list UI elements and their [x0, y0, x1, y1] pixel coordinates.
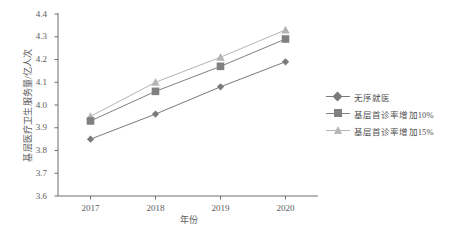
legend-marker-diamond-icon: [333, 91, 343, 101]
data-point-square: [282, 35, 290, 43]
chart-legend: 无序就医基层首诊率增加10%基层首诊率增加15%: [326, 88, 452, 139]
legend-marker-triangle-icon: [334, 126, 342, 134]
legend-label: 基层首诊率增加10%: [350, 108, 434, 120]
data-point-diamond: [217, 83, 224, 90]
series-line-1: [91, 62, 286, 139]
data-point-diamond: [282, 58, 289, 65]
data-point-square: [217, 63, 225, 71]
legend-item-3[interactable]: 基层首诊率增加15%: [326, 122, 452, 139]
data-point-diamond: [152, 111, 159, 118]
data-point-triangle: [281, 26, 289, 34]
legend-label: 基层首诊率增加15%: [350, 125, 434, 137]
data-point-diamond: [87, 136, 94, 143]
data-point-triangle: [216, 53, 224, 61]
data-point-triangle: [151, 78, 159, 86]
series-line-2: [91, 39, 286, 121]
legend-item-1[interactable]: 无序就医: [326, 88, 452, 105]
legend-key-square-icon: [326, 107, 350, 121]
legend-item-2[interactable]: 基层首诊率增加10%: [326, 105, 452, 122]
legend-key-diamond-icon: [326, 90, 350, 104]
data-point-square: [152, 88, 160, 96]
data-point-square: [87, 117, 95, 125]
legend-label: 无序就医: [350, 91, 390, 103]
legend-key-triangle-icon: [326, 124, 350, 138]
legend-marker-square-icon: [334, 109, 342, 117]
chart-container: 基层医疗卫生服务量/亿人次 年份 3.63.73.83.94.04.14.24.…: [0, 0, 452, 238]
